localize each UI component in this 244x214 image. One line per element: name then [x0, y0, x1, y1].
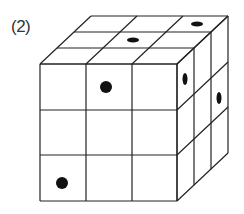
grid-line	[177, 153, 228, 201]
top-face-dot	[127, 38, 139, 43]
cube-grid-lines	[40, 16, 228, 201]
right-face-dot	[217, 92, 222, 104]
front-face-dot	[56, 177, 68, 189]
grid-line	[177, 107, 228, 155]
front-face-dot	[100, 81, 112, 93]
top-face-dot	[191, 22, 203, 27]
right-face-dot	[183, 73, 188, 85]
grid-line	[40, 16, 91, 64]
cube-diagram	[0, 0, 244, 214]
grid-line	[132, 16, 183, 64]
cube-dots	[56, 22, 222, 190]
